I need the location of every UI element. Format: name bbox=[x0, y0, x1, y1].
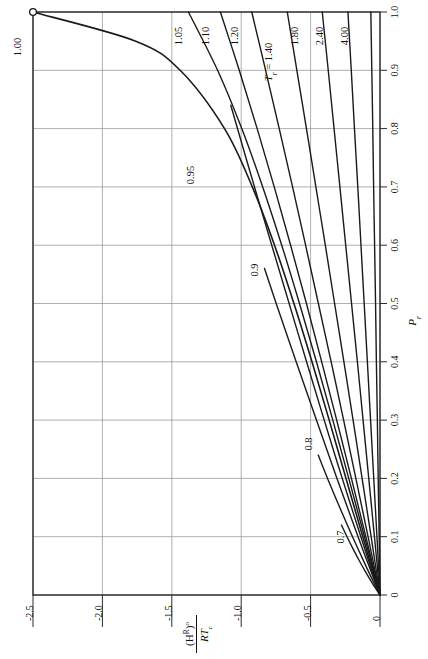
pr-tick-label: 0.3 bbox=[389, 414, 400, 427]
critical-point-marker bbox=[30, 9, 37, 16]
pr-tick-label: 0.5 bbox=[389, 297, 400, 310]
hr-tick-label: -0.5 bbox=[302, 605, 313, 621]
pr-tick-label: 0 bbox=[389, 593, 400, 598]
curve-label-1-05: 1.05 bbox=[173, 27, 184, 45]
pr-tick-label: 1.0 bbox=[389, 6, 400, 19]
pr-tick-label: 0.6 bbox=[389, 239, 400, 252]
pr-tick-label: 0.7 bbox=[389, 181, 400, 194]
hr-tick-label: -1.0 bbox=[232, 605, 243, 621]
curve-label-0-8: 0.8 bbox=[303, 437, 314, 450]
curve-label-1-80: 1.80 bbox=[289, 27, 300, 45]
curve-label-1-20: 1.20 bbox=[229, 27, 240, 45]
hr-tick-label: -1.5 bbox=[163, 605, 174, 621]
pr-tick-label: 0.4 bbox=[389, 356, 400, 369]
curve-label-0-7: 0.7 bbox=[335, 530, 346, 543]
hr-tick-label: -2.5 bbox=[24, 605, 35, 621]
critical-point-open-circle bbox=[30, 9, 37, 16]
curve-label-0-9: 0.9 bbox=[249, 263, 260, 276]
residual-enthalpy-chart: -2.5-2.0-1.5-1.0-0.5000.10.20.30.40.50.6… bbox=[0, 0, 428, 659]
chart-figure: -2.5-2.0-1.5-1.0-0.5000.10.20.30.40.50.6… bbox=[0, 0, 428, 659]
pr-tick-label: 0.2 bbox=[389, 472, 400, 485]
curve-label-1-00: 1.00 bbox=[12, 38, 23, 56]
pr-tick-label: 0.1 bbox=[389, 530, 400, 543]
curve-label-1-10: 1.10 bbox=[200, 27, 211, 45]
curve-label-0-95: 0.95 bbox=[185, 166, 196, 184]
pr-tick-label: 0.9 bbox=[389, 64, 400, 77]
hr-tick-label: -2.0 bbox=[93, 605, 104, 621]
curve-label-2-40: 2.40 bbox=[314, 27, 325, 45]
pr-tick-label: 0.8 bbox=[389, 122, 400, 135]
hr-tick-label: 0 bbox=[371, 616, 382, 621]
curve-label-4-00: 4.00 bbox=[339, 27, 350, 45]
